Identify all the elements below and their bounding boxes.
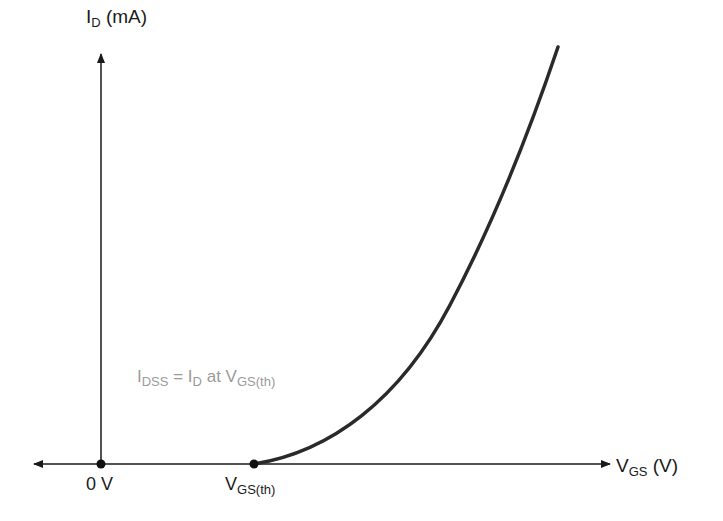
annotation-vgs-main: V [226,367,237,386]
annotation-id-sub: D [193,374,202,389]
x-axis-label-sub: GS [629,464,648,479]
threshold-label: VGS(th) [225,475,275,493]
annotation-vgs-sub: GS(th) [237,374,275,389]
annotation-at: at [202,367,226,386]
x-axis-label: VGS (V) [616,456,678,475]
diagram-canvas [0,0,723,521]
annotation-equals: = [168,367,187,386]
threshold-label-sub: GS(th) [237,482,275,497]
threshold-label-main: V [225,474,237,494]
threshold-dot [250,460,259,469]
annotation-idss-sub: DSS [142,374,169,389]
origin-label: 0 V [86,475,113,493]
transfer-curve [254,47,558,464]
idss-annotation: IDSS = ID at VGS(th) [137,368,275,385]
y-axis-label: ID (mA) [86,7,147,26]
y-axis-label-sub: D [91,15,100,30]
y-axis-label-unit: (mA) [106,6,147,27]
x-axis-label-main: V [616,455,629,476]
origin-label-text: 0 V [86,474,113,494]
x-axis-label-unit: (V) [653,455,678,476]
origin-dot [97,460,106,469]
